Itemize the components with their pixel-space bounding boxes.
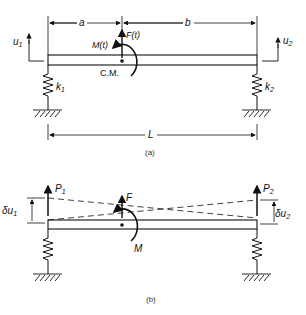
dimension-b-label: b (185, 17, 191, 28)
spring-k2-icon (252, 65, 262, 110)
du1-dimension (27, 198, 45, 223)
center-of-mass-label: C.M. (100, 68, 119, 78)
beam (48, 55, 257, 65)
u2-arrow-icon (262, 38, 278, 61)
p2-label: P2 (263, 183, 274, 195)
caption-a: (a) (145, 148, 155, 157)
k1-label: k1 (56, 81, 65, 93)
force-label: F(t) (126, 30, 140, 40)
figure-b: P1 P2 δu1 δu2 F M (2, 183, 290, 304)
beam-spring-diagram: a b F(t) M(t) C.M. u1 u2 k1 (0, 0, 306, 315)
spring-left-b-icon (43, 229, 53, 274)
dimension-L-label: L (148, 129, 154, 140)
ground-left-b-icon (33, 274, 62, 281)
moment-b-label: M (134, 243, 143, 254)
u1-arrow-icon (29, 34, 44, 61)
center-of-mass-dot-b (120, 223, 124, 227)
ground-right-b-icon (242, 274, 271, 281)
figure-a: a b F(t) M(t) C.M. u1 u2 k1 (13, 16, 293, 157)
du1-label: δu1 (2, 205, 17, 217)
beam-b (48, 220, 257, 229)
k2-label: k2 (265, 81, 274, 93)
ground-right-icon (242, 110, 271, 117)
center-of-mass-dot (120, 59, 124, 63)
u2-label: u2 (283, 35, 293, 47)
du2-label: δu2 (275, 208, 290, 220)
spring-k1-icon (43, 65, 53, 110)
ground-left-icon (33, 110, 62, 117)
p1-label: P1 (55, 183, 66, 195)
spring-right-b-icon (252, 229, 262, 274)
displaced-beam-dashed (48, 198, 257, 220)
force-b-label: F (126, 192, 133, 203)
u1-label: u1 (13, 36, 23, 48)
dimension-a-label: a (79, 17, 85, 28)
moment-label: M(t) (92, 40, 108, 50)
caption-b: (b) (146, 295, 156, 304)
